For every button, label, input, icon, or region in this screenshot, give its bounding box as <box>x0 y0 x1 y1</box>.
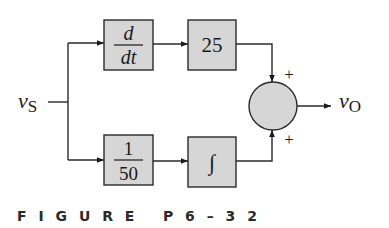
integrator-block: ∫ <box>188 137 236 187</box>
integrator-to-summer-arrow <box>236 130 272 161</box>
summer-bottom-plus: + <box>284 130 294 149</box>
derivative-block: d dt <box>104 20 153 70</box>
scale-numerator: 1 <box>124 138 134 159</box>
figure-caption: F I G U R E P 6 – 3 2 <box>17 208 260 224</box>
summer-top-plus: + <box>284 65 294 84</box>
derivative-numerator: d <box>124 22 135 44</box>
gain-block: 25 <box>188 20 236 70</box>
scale-block: 1 50 <box>104 135 153 185</box>
output-label: vO <box>339 88 361 116</box>
gain-to-summer-arrow <box>236 44 272 82</box>
block-diagram: vS d dt 25 1 50 ∫ + + vO <box>0 0 389 228</box>
input-label: vS <box>18 88 37 116</box>
summing-junction <box>249 82 297 130</box>
scale-denominator: 50 <box>119 163 138 184</box>
derivative-denominator: dt <box>121 46 137 68</box>
gain-label: 25 <box>202 33 223 57</box>
